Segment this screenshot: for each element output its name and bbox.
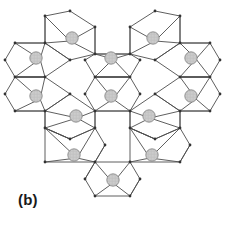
- lattice-vertex: [139, 93, 142, 96]
- lattice-vertex: [129, 53, 132, 56]
- lattice-vertex: [209, 42, 212, 45]
- lattice-vertex: [104, 144, 107, 147]
- atom-sphere: [147, 32, 159, 44]
- lattice-vertex: [14, 110, 17, 113]
- lattice-vertex: [129, 76, 132, 79]
- atom-sphere: [185, 90, 197, 102]
- atom-sphere: [30, 90, 42, 102]
- lattice-vertex: [189, 144, 192, 147]
- lattice-vertex: [154, 59, 157, 62]
- lattice-vertex: [44, 76, 47, 79]
- atom-sphere: [66, 32, 78, 44]
- lattice-vertex: [209, 76, 212, 79]
- lattice-vertex: [129, 127, 132, 130]
- atom-sphere: [107, 174, 119, 186]
- lattice-vertex: [94, 76, 97, 79]
- lattice-vertex: [69, 138, 72, 141]
- atom-sphere: [70, 110, 82, 122]
- lattice-vertex: [44, 110, 47, 113]
- lattice-vertex: [84, 93, 87, 96]
- lattice-vertex: [154, 93, 157, 96]
- panel-label: (b): [18, 192, 38, 207]
- lattice-vertex: [139, 59, 142, 62]
- lattice-vertex: [129, 161, 132, 164]
- lattice-vertex: [44, 15, 47, 18]
- lattice-vertex: [44, 161, 47, 164]
- lattice-vertex: [94, 161, 97, 164]
- lattice-vertex: [94, 110, 97, 113]
- lattice-vertex: [179, 42, 182, 45]
- lattice-vertex: [14, 42, 17, 45]
- lattice-vertex: [44, 127, 47, 130]
- atom-sphere: [105, 90, 117, 102]
- lattice-vertex: [44, 42, 47, 45]
- lattice-vertex: [139, 178, 142, 181]
- lattice-vertex: [154, 10, 157, 13]
- atom-sphere: [143, 110, 155, 122]
- atom-sphere: [146, 149, 158, 161]
- atom-sphere: [68, 149, 80, 161]
- lattice-vertex: [94, 127, 97, 130]
- lattice-vertex: [4, 59, 7, 62]
- atom-sphere: [105, 52, 117, 64]
- figure-panel: (b): [0, 0, 225, 227]
- lattice-vertex: [179, 127, 182, 130]
- lattice-vertex: [219, 59, 222, 62]
- lattice-vertex: [209, 110, 212, 113]
- polyhedra-outline-layer: [5, 11, 220, 196]
- lattice-vertex: [129, 195, 132, 198]
- lattice-vertex: [84, 178, 87, 181]
- lattice-vertex: [179, 15, 182, 18]
- lattice-vertex: [69, 93, 72, 96]
- atom-sphere: [185, 52, 197, 64]
- lattice-vertex: [69, 10, 72, 13]
- lattice-vertex: [179, 76, 182, 79]
- lattice-vertex: [129, 110, 132, 113]
- atom-sphere: [30, 52, 42, 64]
- lattice-vertex: [94, 53, 97, 56]
- lattice-vertex: [84, 59, 87, 62]
- lattice-vertex: [4, 93, 7, 96]
- lattice-vertex: [14, 76, 17, 79]
- lattice-vertex: [179, 110, 182, 113]
- lattice-vertex: [94, 195, 97, 198]
- lattice-vertex: [69, 59, 72, 62]
- lattice-vertex: [179, 161, 182, 164]
- lattice-vertex: [94, 26, 97, 29]
- lattice-vertex: [219, 93, 222, 96]
- lattice-vertex: [154, 138, 157, 141]
- lattice-vertex: [129, 26, 132, 29]
